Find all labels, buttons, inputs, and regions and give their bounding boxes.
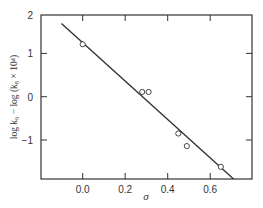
y-tick-labels: 210−1 [22,10,34,146]
regression-line [61,24,233,179]
y-tick-label: 0 [27,92,33,103]
data-point [140,89,145,94]
plot-border [41,15,252,179]
data-point [184,143,189,148]
data-point [146,89,151,94]
data-point [80,42,85,47]
fit-line [61,24,233,179]
axis-ticks [41,15,252,179]
x-axis-label: σ [143,190,149,202]
y-tick-label: −1 [22,135,34,146]
x-tick-label: 0.4 [161,184,175,195]
y-tick-label: 2 [27,10,33,21]
data-point [176,131,181,136]
x-tick-label: 0.6 [203,184,217,195]
x-tick-label: 0.2 [118,184,132,195]
y-tick-label: 1 [27,48,33,59]
x-tick-label: 0.0 [76,184,90,195]
data-point [218,164,223,169]
scatter-chart: 0.00.20.40.6 210−1 σ log k₉ − log (k₈ × … [0,0,263,208]
y-axis-label: log k₉ − log (k₈ × 10⁴) [9,55,20,140]
plot-frame [41,15,252,179]
